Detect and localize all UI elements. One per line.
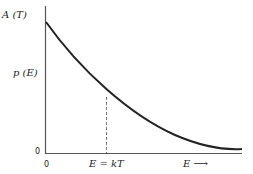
label-zero-y: 0	[35, 147, 40, 156]
label-p-e: p (E)	[13, 67, 38, 78]
label-zero-x: 0	[44, 160, 49, 169]
diagram: A (T) p (E) 0 0 E = kT E ⟶	[0, 0, 253, 174]
label-a-t: A (T)	[2, 9, 27, 20]
label-e-arrow: E ⟶	[183, 158, 208, 169]
curve-p-e	[46, 22, 242, 149]
label-e-kt: E = kT	[89, 158, 124, 169]
